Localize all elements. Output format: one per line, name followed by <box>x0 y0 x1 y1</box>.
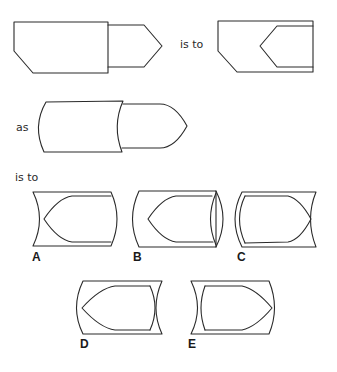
option-e-figure[interactable] <box>191 281 275 334</box>
puzzle-canvas <box>0 0 337 372</box>
option-d-label[interactable]: D <box>80 338 89 350</box>
connector-is-to-2: is to <box>15 172 38 183</box>
option-c-label[interactable]: C <box>237 251 246 263</box>
option-b-figure[interactable] <box>133 191 224 247</box>
connector-is-to-1: is to <box>180 39 203 50</box>
option-c-figure[interactable] <box>235 192 316 247</box>
option-a-figure[interactable] <box>33 192 117 246</box>
figure-1-block-with-tip <box>14 22 162 73</box>
connector-as: as <box>16 122 28 133</box>
figure-3-curved-block-with-bullet <box>38 101 187 152</box>
option-d-figure[interactable] <box>77 281 163 334</box>
option-e-label[interactable]: E <box>188 338 196 350</box>
option-b-label[interactable]: B <box>133 251 142 263</box>
option-a-label[interactable]: A <box>32 251 41 263</box>
figure-2-block-with-inset-tip <box>218 21 313 72</box>
